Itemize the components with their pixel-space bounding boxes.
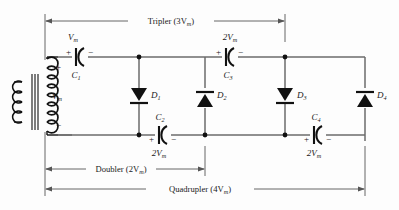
diode-d3-triangle <box>277 88 293 101</box>
circuit-diagram-canvas: + − Vm + − Vm C1 + − C2 2Vm <box>0 0 399 210</box>
capacitor-c2-ref: C2 <box>155 112 164 123</box>
diode-d2-ref: D2 <box>216 90 227 101</box>
junction-dot-c <box>283 55 288 60</box>
capacitor-c3-plates <box>226 48 234 66</box>
capacitor-c3-plus-sign: + <box>216 47 221 57</box>
capacitor-c1-plates <box>76 48 84 66</box>
transformer-core <box>32 74 38 130</box>
capacitor-c2-minus-sign: − <box>171 134 176 144</box>
junction-dot-f <box>283 133 288 138</box>
diode-d1-ref: D1 <box>150 90 161 101</box>
capacitor-c2-plus-sign: + <box>149 134 154 144</box>
diode-d3-ref: D3 <box>296 90 307 101</box>
junction-dot-a <box>137 55 142 60</box>
capacitor-c4-plus-sign: + <box>304 134 309 144</box>
capacitor-c2-value: 2Vm <box>152 148 167 159</box>
diode-d4-ref: D4 <box>376 90 387 101</box>
capacitor-c3: + − 2Vm C3 <box>216 32 243 81</box>
diode-d2-triangle <box>197 94 213 107</box>
capacitor-c1-plus-sign: + <box>66 47 71 57</box>
diode-d1-triangle <box>131 88 147 101</box>
dimension-doubler-label: Doubler (2Vm) <box>95 164 146 175</box>
capacitor-c3-minus-sign: − <box>238 47 243 57</box>
junction-dot-e <box>203 133 208 138</box>
diode-d1: D1 <box>130 88 161 103</box>
capacitor-c3-ref: C3 <box>223 70 232 81</box>
capacitor-c3-value: 2Vm <box>223 32 238 43</box>
diode-d4-triangle <box>357 94 373 107</box>
dimension-doubler-arrow-left <box>45 166 52 171</box>
transformer-primary-coil <box>13 81 22 123</box>
capacitor-c1-minus-sign: − <box>88 47 93 57</box>
capacitor-c4-ref: C4 <box>311 112 320 123</box>
capacitor-c1-ref: C1 <box>71 70 80 81</box>
transformer-plus-sign: + <box>56 62 61 72</box>
diode-d2: D2 <box>196 90 227 107</box>
circuit-svg: + − Vm + − Vm C1 + − C2 2Vm <box>0 0 399 210</box>
dimension-quadrupler-arrow-left <box>45 186 52 191</box>
dimension-tripler-arrow-right <box>278 18 285 23</box>
dimension-quadrupler-arrow-right <box>358 186 365 191</box>
transformer-minus-sign: − <box>56 120 61 130</box>
diode-d4: D4 <box>356 90 387 107</box>
capacitor-c4: + − C4 2Vm <box>304 112 331 159</box>
capacitor-c1-value: Vm <box>68 32 79 43</box>
transformer: + − Vm <box>13 57 63 135</box>
dimension-tripler-label: Tripler (3Vm) <box>148 16 195 27</box>
dimension-doubler-arrow-right <box>198 166 205 171</box>
diode-d3: D3 <box>276 88 307 103</box>
capacitor-c4-minus-sign: − <box>326 134 331 144</box>
capacitor-c1: + − Vm C1 <box>66 32 93 81</box>
dimension-quadrupler-label: Quadrupler (4Vm) <box>169 184 231 195</box>
junction-dot-d <box>137 133 142 138</box>
dimension-tripler-arrow-left <box>45 18 52 23</box>
capacitor-c4-plates <box>314 126 322 144</box>
capacitor-c2-plates <box>159 126 167 144</box>
capacitor-c4-value: 2Vm <box>307 148 322 159</box>
capacitor-c2: + − C2 2Vm <box>149 112 176 159</box>
transformer-secondary-label: Vm <box>52 91 63 102</box>
